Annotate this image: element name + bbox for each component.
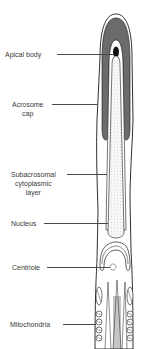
leader-mitochondria [63,324,96,325]
label-subacrosomal-layer: Subacrosomal cytoplasmic layer [11,170,56,197]
label-centriole: Centriole [12,263,40,272]
leader-centriole [47,267,110,268]
label-mitochondria: Mitochondria [10,320,50,329]
label-acrosome-cap: Acrosome cap [12,100,44,118]
leader-acrosome-cap [52,104,98,105]
leader-nucleus [44,223,108,224]
leader-subacrosomal-layer [67,174,107,175]
label-nucleus: Nucleus [11,219,36,228]
centriole-shape [110,264,116,270]
label-apical-body: Apical body [5,50,41,59]
leader-apical-body [57,54,113,55]
